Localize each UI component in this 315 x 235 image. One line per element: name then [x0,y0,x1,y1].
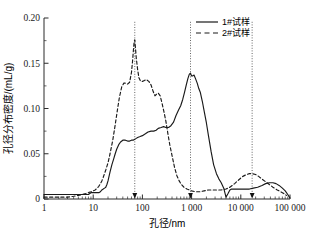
x-tick-label: 10 000 [228,203,254,213]
x-tick-label: 100 [135,203,150,213]
marker-arrow-icon [250,193,255,199]
y-axis-title: 孔径分布密度/(mL/g) [2,63,14,155]
series-line-2 [44,40,287,197]
y-tick-label: 0 [35,194,40,204]
y-tick-label: 0.15 [23,59,40,69]
x-axis-title: 孔径/nm [149,217,186,229]
x-tick-label: 10 [88,203,98,213]
marker-arrow-icon [188,193,193,199]
marker-arrow-icon [132,193,137,199]
pore-size-distribution-chart: 1101001 00010 000100 00000.050.100.150.2… [0,0,315,235]
chart-canvas: 1101001 00010 000100 00000.050.100.150.2… [0,0,315,235]
x-tick-label: 100 000 [275,203,306,213]
y-tick-label: 0.20 [23,13,40,23]
x-tick-label: 1 000 [181,203,203,213]
legend-label-2: 2#试样 [222,27,250,38]
series-line-1 [44,73,290,198]
y-tick-label: 0.10 [23,104,40,114]
x-tick-label: 1 [42,203,47,213]
y-tick-label: 0.05 [23,149,40,159]
legend-label-1: 1#试样 [222,16,250,27]
